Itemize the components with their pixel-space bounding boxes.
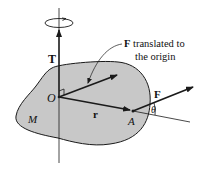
point-A	[132, 110, 135, 113]
label-M: M	[27, 113, 38, 125]
label-r: r	[93, 108, 98, 120]
label-F: F	[154, 88, 161, 100]
label-A: A	[127, 115, 135, 127]
label-T: T	[48, 52, 56, 66]
translated-force-caption-line2: the origin	[135, 51, 176, 62]
rigid-body-shape	[16, 61, 150, 144]
caption-translated-to: translated to	[130, 38, 184, 49]
point-O	[58, 96, 61, 99]
torque-diagram: T O M r A F θ F translated to the origin	[0, 0, 203, 173]
label-O: O	[47, 91, 56, 105]
translated-force-caption-line1: F translated to	[124, 38, 185, 49]
label-theta: θ	[151, 105, 156, 115]
